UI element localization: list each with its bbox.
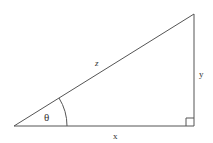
angle-theta-arc	[59, 98, 67, 126]
label-z: z	[94, 58, 99, 68]
side-hypotenuse-z	[14, 14, 194, 126]
label-x: x	[113, 131, 118, 141]
label-y: y	[199, 69, 204, 79]
right-angle-marker	[186, 118, 194, 126]
label-theta: θ	[44, 111, 49, 123]
right-triangle-diagram: z y x θ	[0, 0, 213, 143]
